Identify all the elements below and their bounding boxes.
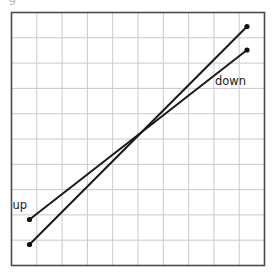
- label-down: down: [215, 74, 246, 88]
- label-up: up: [13, 198, 28, 212]
- series-up-marker-start: [27, 242, 32, 247]
- line-chart-svg: up down: [0, 0, 275, 275]
- clipped-top-glyph: g: [8, 0, 17, 4]
- series-down-marker-start: [27, 217, 32, 222]
- chart-figure: g: [0, 0, 275, 275]
- series-up-marker-end: [244, 24, 249, 29]
- series-down-marker-end: [244, 47, 249, 52]
